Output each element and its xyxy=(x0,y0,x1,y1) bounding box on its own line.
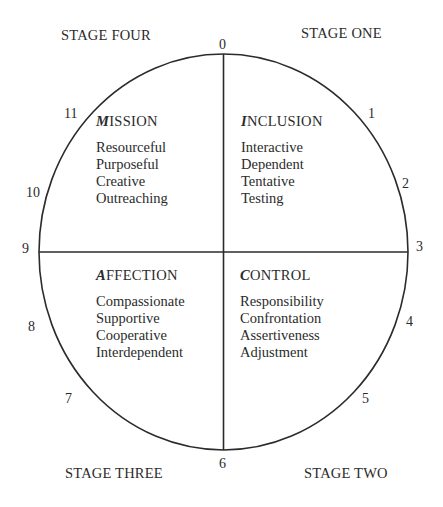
trait: Resourceful xyxy=(96,139,168,156)
quadrant-title-mission: MISSION xyxy=(96,114,158,129)
trait: Interactive xyxy=(241,139,304,156)
clock-10: 10 xyxy=(26,186,40,200)
mission-traits: Resourceful Purposeful Creative Outreach… xyxy=(96,139,168,207)
quadrant-title-affection: AFFECTION xyxy=(96,268,178,283)
trait: Purposeful xyxy=(96,156,168,173)
clock-2: 2 xyxy=(402,177,409,191)
trait: Outreaching xyxy=(96,190,168,207)
trait: Testing xyxy=(241,190,304,207)
trait: Creative xyxy=(96,173,168,190)
quadrant-title-inclusion: INCLUSION xyxy=(241,114,323,129)
clock-9: 9 xyxy=(22,242,29,256)
clock-1: 1 xyxy=(368,107,375,121)
stage-four-label: STAGE FOUR xyxy=(61,28,151,43)
stage-one-label: STAGE ONE xyxy=(301,26,382,41)
inclusion-traits: Interactive Dependent Tentative Testing xyxy=(241,139,304,207)
trait: Adjustment xyxy=(240,344,324,361)
trait: Interdependent xyxy=(96,344,185,361)
clock-6: 6 xyxy=(219,457,226,471)
trait: Compassionate xyxy=(96,293,185,310)
control-traits: Responsibility Confrontation Assertivene… xyxy=(240,293,324,361)
trait: Responsibility xyxy=(240,293,324,310)
clock-7: 7 xyxy=(65,392,72,406)
trait: Supportive xyxy=(96,310,185,327)
clock-5: 5 xyxy=(362,392,369,406)
trait: Tentative xyxy=(241,173,304,190)
quadrant-title-control: CONTROL xyxy=(240,268,311,283)
clock-11: 11 xyxy=(64,107,77,121)
affection-traits: Compassionate Supportive Cooperative Int… xyxy=(96,293,185,361)
clock-0: 0 xyxy=(219,38,226,52)
clock-3: 3 xyxy=(416,240,423,254)
cycle-diagram xyxy=(0,0,443,507)
clock-4: 4 xyxy=(406,315,413,329)
trait: Assertiveness xyxy=(240,327,324,344)
stage-two-label: STAGE TWO xyxy=(304,466,388,481)
clock-8: 8 xyxy=(28,320,35,334)
trait: Confrontation xyxy=(240,310,324,327)
stage-three-label: STAGE THREE xyxy=(65,466,163,481)
trait: Dependent xyxy=(241,156,304,173)
trait: Cooperative xyxy=(96,327,185,344)
